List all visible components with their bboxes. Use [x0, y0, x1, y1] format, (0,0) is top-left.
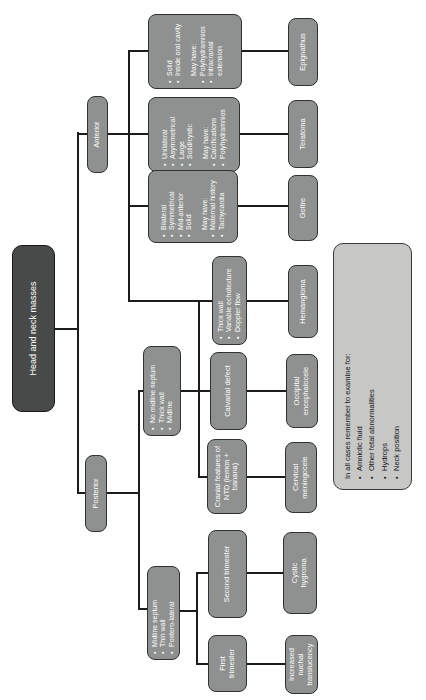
connector-line [128, 50, 130, 302]
connector-line [247, 476, 285, 478]
bullet-item: •Polyhydramnios [199, 18, 208, 83]
bullet-item: •Intracranial extension [207, 18, 224, 83]
bullet-item: •Midline [166, 350, 175, 430]
connector-line [138, 390, 140, 610]
node-hemangioma: Hemangioma [288, 265, 318, 338]
connector-line [77, 132, 79, 494]
connector-line [247, 300, 288, 302]
bullet-dot: • [151, 647, 160, 654]
node-cervical-meningocele: Cervical meningocele [285, 442, 317, 513]
node-posterior: Posterior [85, 455, 107, 532]
bullet-dot: • [177, 230, 186, 237]
bullet-item: •Inside oral cavity [174, 18, 183, 83]
node-posterior-lateral-features: •Midline septum •Thin wall •Postero-late… [147, 566, 180, 660]
node-posterior-midline-features: •No midline septum •Thick wall •Midline [143, 346, 181, 436]
bullet-dot: • [166, 423, 175, 430]
bullet-dot: • [234, 332, 243, 339]
bullet-dot: • [354, 471, 366, 479]
bullet-dot: • [159, 647, 168, 654]
connector-line [196, 572, 198, 665]
bullet-item: •Postero-lateral [168, 570, 177, 654]
bullet-item: •Unilateral [161, 101, 170, 166]
bullet-dot: • [207, 76, 216, 83]
bullet-item: •Solid [166, 18, 175, 83]
node-label: Cranial features of NTD (lemon + banana) [214, 446, 241, 508]
connector-line [55, 328, 78, 330]
bullet-dot: • [161, 159, 170, 166]
connector-line [238, 205, 288, 207]
bullet-item: •Solid [185, 174, 194, 237]
connector-line [196, 663, 208, 665]
node-label: First trimester [219, 646, 237, 682]
node-label: Anterior [93, 121, 102, 147]
node-cystic-hygroma: Cystic hygroma [283, 532, 317, 614]
bullet-dot: • [186, 159, 195, 166]
note-bullet-item: •Neck position [391, 254, 403, 479]
connector-line [247, 663, 285, 665]
node-label: Head and neck masses [28, 281, 39, 375]
bullet-dot: • [158, 423, 167, 430]
bullet-dot: • [149, 423, 158, 430]
bullet-item: •Symmetrical [168, 174, 177, 237]
node-label: Calvarial defect [224, 365, 233, 417]
connector-line [181, 390, 210, 392]
bullet-dot: • [169, 159, 178, 166]
node-goitre: Goitre [288, 175, 318, 241]
bullet-dot: • [160, 230, 169, 237]
connector-line [128, 50, 148, 52]
bullet-dot: • [185, 230, 194, 237]
node-label: Occipital encephalocele [293, 362, 311, 420]
node-first-trimester: First trimester [208, 635, 247, 692]
node-label: Teratoma [299, 118, 308, 149]
may-have-label: May have: [202, 101, 211, 166]
bullet-item: •Calcifications [210, 101, 219, 166]
node-second-trimester: Second trimester [208, 530, 247, 618]
node-root: Head and neck masses [12, 245, 55, 412]
note-bullet-item: •Other fetal abnormalities [366, 254, 378, 479]
bullet-dot: • [168, 647, 177, 654]
bullet-dot: • [174, 76, 183, 83]
bullet-item: •Mid-anterior [177, 174, 186, 237]
connector-line [240, 133, 288, 135]
connector-line [247, 572, 283, 574]
may-have-label: May have: [190, 18, 199, 83]
note-box: In all cases remember to examine for: •A… [333, 243, 412, 490]
node-anterior-epignathus-features: •Solid •Inside oral cavity May have: •Po… [148, 14, 242, 89]
bullet-item: •Thick wall [158, 350, 167, 430]
node-calvarial-defect: Calvarial defect [210, 352, 247, 430]
bullet-item: •Variable echotexture [225, 260, 234, 339]
note-bullet-item: •Amniotic fluid [354, 254, 366, 479]
connector-line [198, 300, 200, 478]
node-increased-nuchal-translucency: Increased nuchal translucency [285, 635, 318, 694]
bullet-item: •Polyhydramnios [219, 101, 228, 166]
bullet-item: •Midline septum [151, 570, 160, 654]
bullet-item: •Large [178, 101, 187, 166]
bullet-dot: • [168, 230, 177, 237]
connector-line [196, 572, 208, 574]
bullet-item: •Solid/cystic [186, 101, 195, 166]
connector-line [198, 476, 207, 478]
bullet-dot: • [218, 230, 227, 237]
bullet-item: •No midline septum [149, 350, 158, 430]
node-occipital-encephalocele: Occipital encephalocele [286, 354, 318, 428]
connector-line [247, 390, 286, 392]
node-label: Epignathus [299, 33, 308, 71]
bullet-dot: • [178, 159, 187, 166]
node-label: Cervical meningocele [292, 452, 310, 504]
bullet-item: •Thick wall [217, 260, 226, 339]
node-anterior-goitre-features: •Bilateral •Symmetrical •Mid-anterior •S… [148, 170, 238, 243]
bullet-dot: • [210, 159, 219, 166]
flowchart: Head and neck masses Anterior Posterior … [0, 0, 426, 700]
bullet-dot: • [379, 471, 391, 479]
bullet-item: •Maternal history [209, 174, 218, 237]
node-label: Goitre [299, 198, 308, 218]
node-hemangioma-features: •Thick wall •Variable echotexture •Doppl… [212, 256, 247, 345]
bullet-dot: • [219, 159, 228, 166]
node-anterior-teratoma-features: •Unilateral •Asymmetrical •Large •Solid/… [148, 97, 240, 172]
connector-line [138, 608, 147, 610]
bullet-dot: • [225, 332, 234, 339]
node-label: Hemangioma [299, 279, 308, 324]
node-anterior: Anterior [87, 96, 108, 173]
bullet-item: •Tachycardia [218, 174, 227, 237]
bullet-dot: • [166, 76, 175, 83]
